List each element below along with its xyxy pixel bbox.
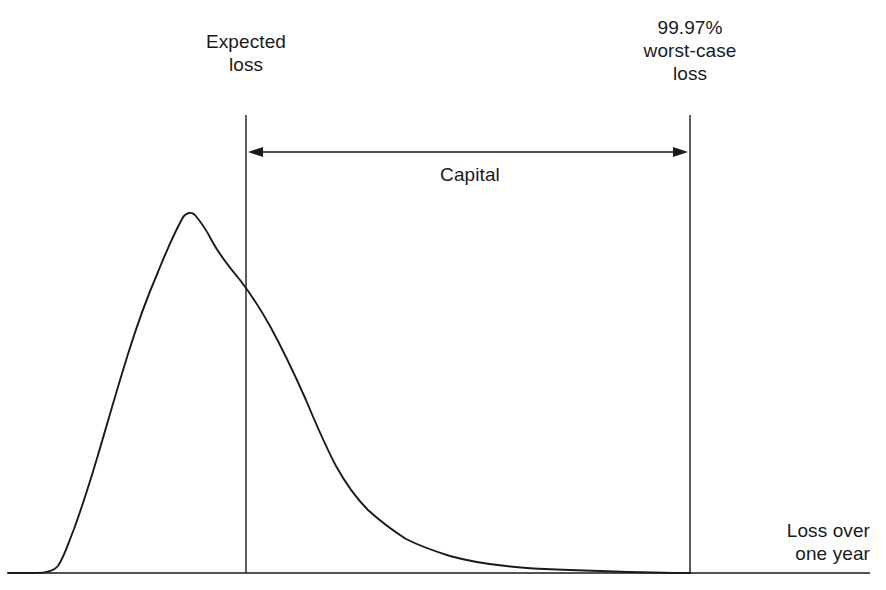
capital-arrow xyxy=(248,147,688,157)
loss-distribution-figure: Expected loss 99.97% worst-case loss Cap… xyxy=(0,0,886,590)
capital-arrow-head-left xyxy=(248,147,263,157)
loss-distribution-curve xyxy=(8,213,690,573)
capital-arrow-head-right xyxy=(673,147,688,157)
capital-label: Capital xyxy=(370,163,570,186)
x-axis-label: Loss over one year xyxy=(730,519,870,565)
worst-case-loss-label: 99.97% worst-case loss xyxy=(590,16,790,85)
expected-loss-label: Expected loss xyxy=(146,30,346,76)
chart-canvas xyxy=(0,0,886,590)
